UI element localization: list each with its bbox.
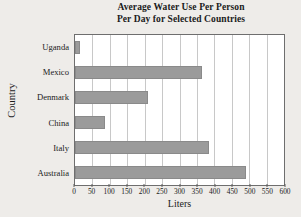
- x-axis-tick-label: 0: [72, 187, 76, 196]
- y-axis-tick-label: China: [10, 110, 72, 135]
- x-axis-tick-label: 600: [279, 187, 290, 196]
- y-axis-tick-labels: UgandaMexicoDenmarkChinaItalyAustralia: [10, 34, 72, 186]
- bar-row: [75, 135, 284, 160]
- y-axis-tick-label: Mexico: [10, 59, 72, 84]
- bar-series: [75, 35, 284, 185]
- bar-italy: [75, 141, 209, 154]
- x-axis-tick-label: 50: [88, 187, 95, 196]
- x-axis-title: Liters: [74, 198, 285, 209]
- x-axis-tick-label: 550: [262, 187, 273, 196]
- x-axis-tick-label: 250: [156, 187, 167, 196]
- chart-title-line-1: Average Water Use Per Person: [66, 2, 296, 14]
- x-axis-tick-label: 150: [121, 187, 132, 196]
- y-axis-tick-label: Italy: [10, 135, 72, 160]
- x-axis-tick-label: 100: [104, 187, 115, 196]
- chart-container: Average Water Use Per Person Per Day for…: [0, 0, 301, 217]
- bar-australia: [75, 166, 246, 179]
- plot-area: [74, 34, 285, 186]
- x-axis-tick-label: 200: [139, 187, 150, 196]
- y-axis-tick-label: Australia: [10, 161, 72, 186]
- x-axis-tick-label: 500: [244, 187, 255, 196]
- x-axis-tick-labels: 050100150200250300350400450500550600: [74, 187, 285, 198]
- x-axis-tick-label: 300: [174, 187, 185, 196]
- bar-row: [75, 160, 284, 185]
- bar-row: [75, 110, 284, 135]
- bar-uganda: [75, 41, 80, 54]
- bar-row: [75, 60, 284, 85]
- y-axis-tick-label: Denmark: [10, 85, 72, 110]
- bar-china: [75, 116, 105, 129]
- bar-row: [75, 85, 284, 110]
- x-axis-tick-label: 450: [227, 187, 238, 196]
- bar-mexico: [75, 66, 202, 79]
- x-axis-tick-label: 400: [209, 187, 220, 196]
- chart-title-line-2: Per Day for Selected Countries: [66, 14, 296, 26]
- y-axis-tick-label: Uganda: [10, 34, 72, 59]
- bar-denmark: [75, 91, 148, 104]
- bar-row: [75, 35, 284, 60]
- x-axis-tick-label: 350: [192, 187, 203, 196]
- chart-title: Average Water Use Per Person Per Day for…: [66, 2, 296, 25]
